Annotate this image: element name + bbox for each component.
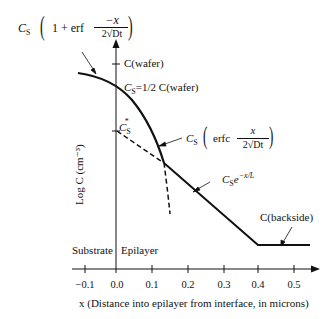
exp-formula-label: CSe−x/L: [222, 172, 254, 188]
cs-symbol: C: [18, 21, 26, 35]
x-axis-label: x (Distance into epilayer from interface…: [79, 298, 309, 309]
erfc-continuation-dashed: [164, 163, 170, 214]
c-wafer-label: C(wafer): [124, 58, 164, 69]
x-tick-label: 0.4: [251, 279, 264, 290]
diagram-canvas: [0, 0, 336, 319]
one-plus-erf: 1 + erf: [52, 22, 84, 34]
y-axis-arrow-icon: [113, 39, 120, 48]
x-tick-label: −0.1: [75, 279, 94, 290]
x-tick-label: 0.3: [217, 279, 230, 290]
x-tick-label: 0.1: [145, 279, 158, 290]
backside-label: C(backside): [260, 212, 313, 223]
x-tick-label: 0.2: [181, 279, 194, 290]
cs-star-label: CS*: [119, 120, 135, 136]
x-tick-label: 0.5: [287, 279, 300, 290]
y-axis-label: Log C (cm⁻³): [73, 144, 86, 205]
epilayer-label: Epilayer: [121, 245, 158, 256]
x-tick-label: 0.0: [110, 279, 123, 290]
x-axis-arrow-icon: [311, 266, 320, 273]
substrate-label: Substrate: [72, 245, 113, 256]
cs-half-label: CS=1/2 C(wafer): [124, 82, 199, 96]
